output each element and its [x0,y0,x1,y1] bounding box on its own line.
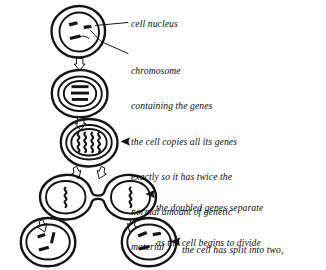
label-copies-line1: the cell copies all its genes [131,136,237,148]
label-split-line1: the cell has split into two, [182,244,283,256]
inner-membrane-outline [71,129,106,156]
chromosome-dash [69,21,79,26]
chromosome-dash [70,34,81,40]
stage-5-daughter-cell-left [21,218,76,266]
label-cell-nucleus: cell nucleus [131,18,178,30]
stage-3-doubled-cell [61,119,118,167]
cell-nucleus-outline [26,225,70,260]
chromosome-wavy [65,188,67,208]
chromosome-bar [72,98,88,101]
callout-arrow-copies [121,137,131,146]
chromosome-wavy [91,133,93,153]
chromosome-dash [37,233,46,239]
label-chromosome-line2: containing the genes [131,100,212,112]
cell-nucleus-outline [66,125,112,160]
chromosome-dash [39,246,50,252]
arrow-stage1-to-stage2 [74,59,85,71]
arrow-stage3-to-stage4-right [97,166,106,178]
label-separate-line1: the doubled genes separate [156,202,263,214]
stage-2-condensed-cell [52,70,108,117]
label-cell-nucleus-text: cell nucleus [131,18,178,29]
label-chromosome-line1: chromosome [131,65,212,77]
arrowhead [121,137,131,146]
chromosome-dash [84,25,92,29]
stage-1-resting-cell [51,6,105,58]
chromosome-bar [71,92,89,95]
chromosome-dash [50,232,56,244]
cell-nucleus-outline [60,13,100,52]
chromosome-tail [80,36,89,38]
label-cell-split: the cell has split into two, with a comp… [182,221,283,270]
chromosome-bar [72,85,89,88]
cell-division-figure: .ink { fill:none; stroke:#141414; stroke… [0,0,326,270]
leader-cell-nucleus [96,23,129,26]
chromosome-wavy [84,133,86,153]
chromosome-wavy [98,133,100,153]
chromosome-wavy [78,133,80,153]
